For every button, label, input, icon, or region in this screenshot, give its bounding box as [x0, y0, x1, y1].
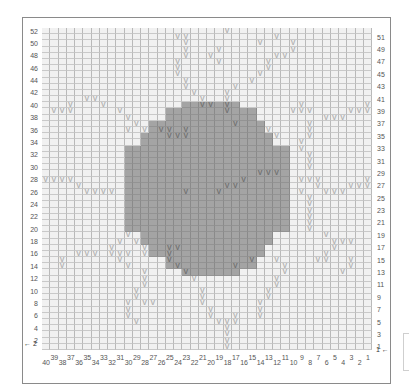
- v-stitch-icon: V: [59, 262, 66, 269]
- chart-cell: [347, 344, 355, 350]
- row-label: 28: [30, 176, 38, 183]
- v-stitch-icon: V: [125, 312, 132, 319]
- row-label: 7: [377, 306, 381, 313]
- chart-cell: [182, 344, 190, 350]
- chart-cell: [83, 344, 91, 350]
- v-stitch-icon: V: [125, 114, 132, 121]
- chart-cell: [232, 344, 240, 350]
- row-label: 8: [34, 300, 38, 307]
- column-label: 39: [48, 354, 60, 361]
- v-stitch-icon: V: [232, 182, 239, 189]
- row-labels-right: 5149474543413937353331292725232119171513…: [374, 28, 394, 350]
- row-label: 33: [377, 145, 385, 152]
- chart-cell: [257, 344, 265, 350]
- v-stitch-icon: V: [306, 132, 313, 139]
- row-label: 3: [377, 331, 381, 338]
- v-stitch-icon: V: [240, 176, 247, 183]
- chart-cell: [191, 344, 199, 350]
- row-label: 50: [30, 40, 38, 47]
- start-arrow-right-icon: 1 ←: [376, 346, 389, 353]
- v-stitch-icon: V: [174, 262, 181, 269]
- chart-cell: [290, 344, 298, 350]
- row-label: 20: [30, 226, 38, 233]
- v-stitch-icon: V: [273, 33, 280, 40]
- chart-cell: [133, 344, 141, 350]
- v-stitch-icon: V: [125, 126, 132, 133]
- column-label: 11: [279, 354, 291, 361]
- column-label: 25: [164, 354, 176, 361]
- v-stitch-icon: V: [248, 256, 255, 263]
- v-stitch-icon: V: [232, 120, 239, 127]
- column-label: 1: [362, 354, 374, 361]
- v-stitch-icon: V: [108, 188, 115, 195]
- v-stitch-icon: V: [125, 231, 132, 238]
- v-stitch-icon: V: [133, 318, 140, 325]
- v-stitch-icon: V: [100, 101, 107, 108]
- v-stitch-icon: V: [67, 107, 74, 114]
- column-label: 3: [345, 354, 357, 361]
- row-label: 9: [377, 294, 381, 301]
- chart-cell: [356, 344, 364, 350]
- v-stitch-icon: V: [92, 95, 99, 102]
- v-stitch-icon: V: [273, 132, 280, 139]
- v-stitch-icon: V: [306, 176, 313, 183]
- v-stitch-icon: V: [174, 70, 181, 77]
- row-label: 32: [30, 151, 38, 158]
- chart-cell: [364, 344, 372, 350]
- v-stitch-icon: V: [207, 52, 214, 59]
- v-stitch-icon: V: [75, 182, 82, 189]
- v-stitch-icon: V: [182, 132, 189, 139]
- start-arrow-left-icon: ← 2: [24, 340, 37, 347]
- chart-cell: [50, 344, 58, 350]
- v-stitch-icon: V: [232, 318, 239, 325]
- column-label: 29: [131, 354, 143, 361]
- knitting-chart: VVVVVVVVVVVVVVVVVVVVVVVVVVVVVVVVVVVVVVVV…: [42, 28, 372, 350]
- v-stitch-icon: V: [306, 107, 313, 114]
- column-label: 37: [65, 354, 77, 361]
- row-label: 29: [377, 170, 385, 177]
- v-stitch-icon: V: [347, 262, 354, 269]
- chart-cell: [306, 344, 314, 350]
- v-stitch-icon: V: [257, 39, 264, 46]
- chart-cell: [240, 344, 248, 350]
- column-labels: 4038363432302826242220181614121086423937…: [42, 351, 372, 371]
- chart-cell: [125, 344, 133, 350]
- row-label: 40: [30, 102, 38, 109]
- row-label: 45: [377, 71, 385, 78]
- chart-cell: [92, 344, 100, 350]
- v-stitch-icon: V: [59, 176, 66, 183]
- v-stitch-icon: V: [83, 95, 90, 102]
- row-label: 34: [30, 139, 38, 146]
- v-stitch-icon: V: [59, 107, 66, 114]
- row-label: 37: [377, 120, 385, 127]
- row-label: 14: [30, 263, 38, 270]
- column-label: 19: [213, 354, 225, 361]
- v-stitch-icon: V: [273, 281, 280, 288]
- chart-cell: [166, 344, 174, 350]
- row-label: 51: [377, 34, 385, 41]
- chart-cell: [141, 344, 149, 350]
- v-stitch-icon: V: [92, 188, 99, 195]
- v-stitch-icon: V: [133, 293, 140, 300]
- v-stitch-icon: V: [116, 107, 123, 114]
- chart-cell: [331, 344, 339, 350]
- v-stitch-icon: V: [331, 188, 338, 195]
- chart-cell: [215, 344, 223, 350]
- v-stitch-icon: V: [75, 250, 82, 257]
- v-stitch-icon: V: [92, 250, 99, 257]
- v-stitch-icon: V: [331, 244, 338, 251]
- v-stitch-icon: V: [281, 268, 288, 275]
- chart-cell: [298, 344, 306, 350]
- row-label: 15: [377, 257, 385, 264]
- v-stitch-icon: V: [323, 114, 330, 121]
- v-stitch-icon: V: [174, 33, 181, 40]
- v-stitch-icon: V: [207, 101, 214, 108]
- row-label: 41: [377, 96, 385, 103]
- v-stitch-icon: V: [182, 268, 189, 275]
- v-stitch-icon: V: [158, 126, 165, 133]
- v-stitch-icon: V: [133, 120, 140, 127]
- chart-cell: [281, 344, 289, 350]
- v-stitch-icon: V: [174, 244, 181, 251]
- column-label: 17: [230, 354, 242, 361]
- v-stitch-icon: V: [215, 58, 222, 65]
